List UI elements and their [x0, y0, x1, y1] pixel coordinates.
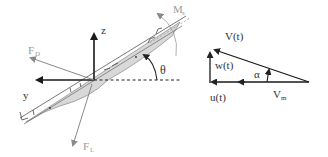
svg-text:m: m: [281, 94, 287, 102]
theta-arc: [144, 55, 157, 80]
w-label: w(t): [215, 59, 234, 72]
u-label: u(t): [210, 91, 226, 104]
lift-force-label: F L: [83, 140, 94, 154]
velocity-label: V(t): [225, 30, 244, 43]
drag-force-label: F D: [28, 44, 40, 58]
alpha-label: α: [254, 68, 260, 80]
svg-text:D: D: [35, 50, 40, 58]
z-axis-label: z: [101, 24, 106, 36]
drag-force-arrow: [31, 58, 94, 80]
alpha-arc: [267, 70, 269, 82]
svg-text:F: F: [28, 44, 34, 56]
svg-text:F: F: [83, 140, 89, 152]
theta-label: θ: [160, 63, 166, 77]
hull-keel-line: [24, 26, 182, 124]
svg-text:V: V: [273, 88, 281, 100]
svg-text:s: s: [182, 9, 185, 17]
hull-shape: [26, 22, 180, 122]
svg-text:L: L: [90, 146, 94, 154]
y-axis-label: y: [23, 89, 29, 101]
moment-label: M s: [173, 3, 185, 17]
mean-velocity-label: V m: [273, 88, 287, 102]
diagram-canvas: z y F D F L M s θ V(t) w(t) α u(t) V m: [0, 0, 328, 157]
